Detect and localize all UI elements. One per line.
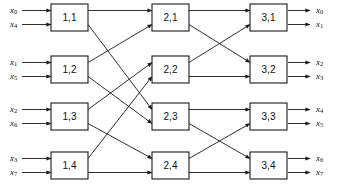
output-label-x4: x4 — [315, 104, 324, 115]
edge-s1r2t-to-s2r1b — [88, 25, 152, 63]
input-label-x4: x4 — [9, 19, 18, 30]
edge-s1r3b-to-s2r4t — [88, 124, 152, 159]
node-n23[interactable]: 2,3 — [152, 103, 189, 130]
node-label-n31: 3,1 — [262, 12, 276, 23]
input-label-x1: x1 — [9, 57, 17, 68]
node-label-n14: 1,4 — [63, 160, 77, 171]
node-label-n13: 1,3 — [63, 111, 77, 122]
input-label-x3: x3 — [9, 153, 17, 164]
edge-s1r3t-to-s2r2t — [88, 63, 152, 110]
node-n32[interactable]: 3,2 — [250, 56, 287, 83]
input-label-x0: x0 — [9, 5, 17, 16]
node-n22[interactable]: 2,2 — [152, 56, 189, 83]
output-label-x5: x5 — [315, 118, 323, 129]
node-label-n21: 2,1 — [164, 12, 178, 23]
output-label-x6: x6 — [315, 153, 324, 164]
node-label-n12: 1,2 — [63, 64, 77, 75]
node-label-n33: 3,3 — [262, 111, 276, 122]
edge-s1r4t-to-s2r2b — [88, 77, 152, 159]
output-label-x7: x7 — [315, 167, 324, 178]
network-canvas: 1,11,21,31,42,12,22,32,43,13,23,33,4 x0x… — [0, 0, 344, 196]
node-label-n24: 2,4 — [164, 160, 178, 171]
input-label-x7: x7 — [9, 167, 18, 178]
node-n13[interactable]: 1,3 — [51, 103, 88, 130]
node-n31[interactable]: 3,1 — [250, 4, 287, 31]
node-layer: 1,11,21,31,42,12,22,32,43,13,23,33,4 — [51, 4, 287, 179]
input-label-x5: x5 — [9, 71, 17, 82]
node-label-n32: 3,2 — [262, 64, 276, 75]
node-n33[interactable]: 3,3 — [250, 103, 287, 130]
input-label-x2: x2 — [9, 104, 17, 115]
butterfly-network-diagram: 1,11,21,31,42,12,22,32,43,13,23,33,4 x0x… — [0, 0, 344, 196]
wire-layer — [22, 11, 310, 173]
node-n11[interactable]: 1,1 — [51, 4, 88, 31]
node-n12[interactable]: 1,2 — [51, 56, 88, 83]
edge-s1r1b-to-s2r3t — [88, 25, 152, 110]
output-label-x0: x0 — [315, 5, 323, 16]
node-label-n11: 1,1 — [63, 12, 77, 23]
input-label-x6: x6 — [9, 118, 18, 129]
node-label-n22: 2,2 — [164, 64, 178, 75]
node-n24[interactable]: 2,4 — [152, 152, 189, 179]
node-n14[interactable]: 1,4 — [51, 152, 88, 179]
node-label-n34: 3,4 — [262, 160, 276, 171]
output-label-x3: x3 — [315, 71, 323, 82]
output-label-x1: x1 — [315, 19, 323, 30]
node-n34[interactable]: 3,4 — [250, 152, 287, 179]
edge-s1r2b-to-s2r3b — [88, 77, 152, 124]
node-n21[interactable]: 2,1 — [152, 4, 189, 31]
output-label-x2: x2 — [315, 57, 323, 68]
node-label-n23: 2,3 — [164, 111, 178, 122]
